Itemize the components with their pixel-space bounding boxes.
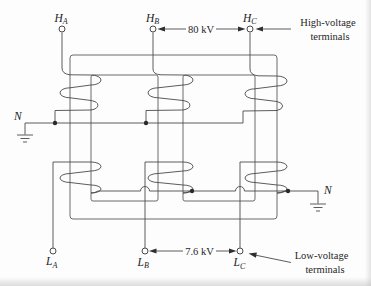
transformer-diagram: HA HB HC LA LB LC N N 80 kV High-voltage…	[0, 0, 371, 286]
lv-winding-phase-a	[53, 162, 101, 248]
arrow-left-icon	[256, 27, 264, 32]
scan-edge-shadow-right	[365, 0, 371, 286]
lv-voltage-value: 7.6 kV	[185, 246, 214, 257]
hv-terminals-caption: High-voltage terminals	[256, 17, 357, 42]
scan-edge-shadow-bottom	[0, 277, 371, 286]
hv-windings	[55, 33, 287, 124]
ground-symbol-right	[310, 204, 326, 211]
hv-winding-phase-b	[146, 33, 193, 124]
lv-caption-line2: terminals	[305, 264, 344, 275]
arrow-left-icon	[158, 27, 166, 32]
label-lc: LC	[233, 256, 246, 271]
arrow-right-icon	[238, 27, 246, 32]
lv-winding-phase-c	[240, 162, 288, 248]
hv-voltage-value: 80 kV	[188, 24, 214, 35]
arrow-right-icon	[229, 249, 237, 254]
terminal-circles	[50, 26, 253, 254]
lv-windings	[53, 162, 288, 248]
label-la: LA	[45, 255, 57, 270]
arrow-left-icon	[149, 249, 157, 254]
label-hc: HC	[242, 12, 257, 27]
terminal-lb	[142, 248, 148, 254]
lv-caption-line1: Low-voltage	[295, 250, 349, 261]
pointer-line	[256, 255, 291, 262]
terminal-labels: HA HB HC LA LB LC N N	[13, 12, 333, 271]
arrow-left-icon	[249, 253, 257, 258]
hv-winding-phase-c	[243, 33, 287, 124]
junction-dot	[190, 189, 194, 193]
label-neutral-right: N	[323, 184, 333, 196]
junction-dot	[286, 189, 290, 193]
junction-dot	[53, 121, 57, 125]
hv-voltage-annotation: 80 kV	[158, 24, 246, 35]
junction-dot	[144, 121, 148, 125]
label-neutral-left: N	[13, 110, 23, 122]
lv-winding-phase-b	[145, 162, 193, 248]
ground-symbol-left	[17, 135, 33, 142]
label-lb: LB	[137, 256, 149, 271]
hv-winding-phase-a	[55, 33, 101, 124]
hv-neutral-bus	[17, 121, 243, 142]
terminal-hb	[150, 26, 156, 32]
core-right-window	[183, 75, 255, 201]
terminal-hc	[247, 26, 253, 32]
terminal-ha	[59, 26, 65, 32]
lv-terminals-caption: Low-voltage terminals	[249, 250, 349, 275]
lv-neutral-wire	[98, 187, 318, 191]
label-hb: HB	[145, 12, 159, 27]
hv-caption-line1: High-voltage	[300, 17, 356, 28]
terminal-lc	[237, 248, 243, 254]
label-ha: HA	[54, 12, 68, 27]
hv-caption-line2: terminals	[310, 31, 349, 42]
terminal-la	[50, 248, 56, 254]
lv-neutral-bus	[98, 187, 326, 211]
circuit-canvas: HA HB HC LA LB LC N N 80 kV High-voltage…	[0, 0, 371, 286]
lv-voltage-annotation: 7.6 kV	[149, 246, 237, 257]
